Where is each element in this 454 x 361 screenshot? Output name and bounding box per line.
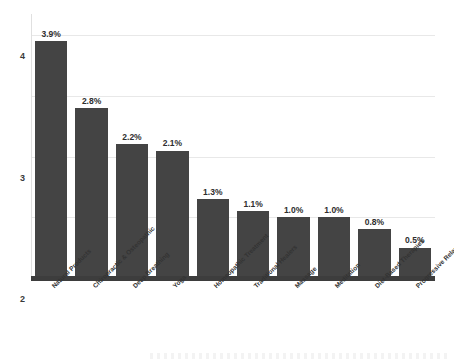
category-label-slot: Meditation: [314, 283, 354, 361]
x-axis-baseline-bar: [31, 276, 435, 281]
category-label-slot: Homeopathic Treatment: [193, 283, 233, 361]
y-axis-tick-label: 4: [20, 52, 25, 61]
bar-chart: 1234 3.9%2.8%2.2%2.1%1.3%1.1%1.0%1.0%0.8…: [0, 0, 454, 361]
bar-value-label: 2.2%: [112, 133, 152, 142]
bar-slot: 1.0%: [314, 14, 354, 278]
category-label-slot: Natural Products: [31, 283, 71, 361]
category-label-slot: Diet-Based Therapies: [354, 283, 394, 361]
bar[interactable]: [197, 199, 229, 278]
bar-slot: 2.8%: [71, 14, 111, 278]
category-label-slot: Chiropractic & Osteopathic: [71, 283, 111, 361]
category-labels-layer: Natural ProductsChiropractic & Osteopath…: [31, 283, 435, 361]
cropped-footer-text-artifact: [150, 353, 450, 359]
bar-value-label: 1.0%: [273, 206, 313, 215]
bar-value-label: 1.1%: [233, 200, 273, 209]
bar-value-label: 2.8%: [71, 97, 111, 106]
y-axis-tick-label: 3: [20, 173, 25, 182]
bar[interactable]: [35, 41, 67, 278]
y-axis-tick-label: 2: [20, 295, 25, 304]
bar-value-label: 0.8%: [354, 218, 394, 227]
bar-slot: 2.1%: [152, 14, 192, 278]
category-label-slot: Massage: [273, 283, 313, 361]
bar-value-label: 3.9%: [31, 30, 71, 39]
category-label-slot: Progressive Relaxation: [395, 283, 435, 361]
bar-slot: 3.9%: [31, 14, 71, 278]
bar-slot: 0.5%: [395, 14, 435, 278]
category-label-slot: Deep Breathing: [112, 283, 152, 361]
bar-value-label: 1.3%: [193, 188, 233, 197]
category-label-slot: Yoga: [152, 283, 192, 361]
bar-value-label: 2.1%: [152, 139, 192, 148]
bar-slot: 1.0%: [273, 14, 313, 278]
bar-slot: 1.3%: [193, 14, 233, 278]
bar-value-label: 1.0%: [314, 206, 354, 215]
bar[interactable]: [318, 217, 350, 278]
bars-layer: 3.9%2.8%2.2%2.1%1.3%1.1%1.0%1.0%0.8%0.5%: [31, 14, 435, 278]
category-label-slot: Traditional Healers: [233, 283, 273, 361]
bar-slot: 0.8%: [354, 14, 394, 278]
